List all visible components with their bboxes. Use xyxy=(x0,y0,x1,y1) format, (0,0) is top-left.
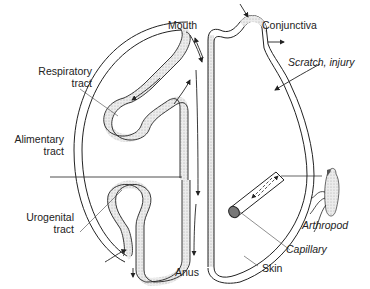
scratch-injury-label: Scratch, injury xyxy=(288,57,355,68)
urogenital-tract-label-line1: Urogenital xyxy=(10,212,74,223)
mouth-label: Mouth xyxy=(168,20,197,31)
anus-label: Anus xyxy=(175,267,199,278)
capillary-label: Capillary xyxy=(286,244,327,255)
respiratory-tract-label-line1: Respiratory xyxy=(28,66,92,77)
arthropod-label: Arthropod xyxy=(302,220,348,231)
urogenital-tract-label-line2: tract xyxy=(10,224,74,235)
respiratory-tract-label-line2: tract xyxy=(28,78,92,89)
alimentary-tract-label-line2: tract xyxy=(0,146,64,157)
alimentary-tract-label-line1: Alimentary xyxy=(0,134,64,145)
conjunctiva-label: Conjunctiva xyxy=(262,20,317,31)
respiratory-tract xyxy=(104,28,191,182)
skin-label: Skin xyxy=(262,263,282,274)
